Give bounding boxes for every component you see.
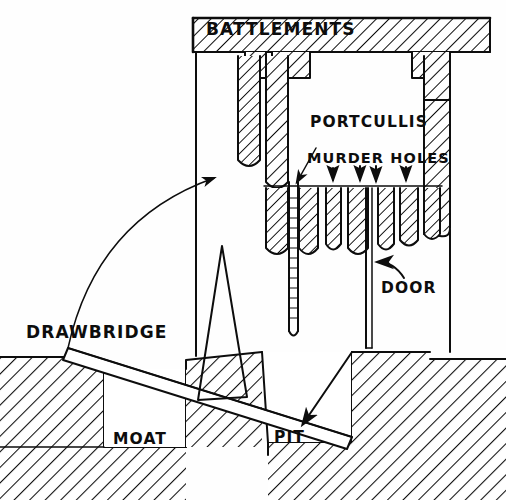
castle-gatehouse-diagram: BATTLEMENTS PORTCULLIS MURDER HOLES DOOR…: [0, 0, 506, 500]
door-pointer-arrow: [378, 262, 404, 278]
label-door: DOOR: [381, 279, 437, 297]
label-murder-holes: MURDER HOLES: [307, 150, 450, 166]
label-pit: PIT: [274, 428, 305, 446]
inner-wall-column: [266, 56, 288, 188]
portcullis-shaft: [289, 182, 298, 336]
ground-earth-mass: [0, 352, 506, 500]
label-battlements: BATTLEMENTS: [206, 19, 356, 39]
label-drawbridge: DRAWBRIDGE: [26, 322, 167, 342]
label-moat: MOAT: [113, 430, 167, 448]
label-portcullis: PORTCULLIS: [310, 113, 428, 131]
portcullis-upper-bar: [238, 56, 260, 166]
murder-hole-arrows: [333, 166, 406, 181]
castle-cross-section-drawing: BATTLEMENTS PORTCULLIS MURDER HOLES DOOR…: [0, 0, 506, 500]
